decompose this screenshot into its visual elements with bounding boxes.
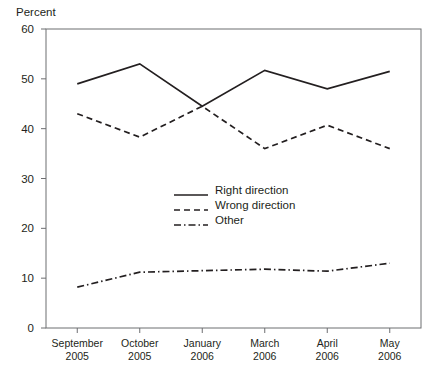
y-tick-label: 0 <box>8 322 34 334</box>
x-tick-year: 2006 <box>340 350 435 363</box>
legend-swatch-dashed <box>174 201 208 211</box>
y-tick-label: 50 <box>8 73 34 85</box>
series-line-right-direction <box>77 64 390 106</box>
series-line-other <box>77 263 390 287</box>
legend-swatch-dash-dot <box>174 216 208 226</box>
x-tick-month: March <box>250 337 279 349</box>
y-tick-label: 60 <box>8 23 34 35</box>
y-tick-label: 30 <box>8 173 34 185</box>
x-axis-ticks <box>77 328 390 333</box>
x-tick-label: May2006 <box>340 337 435 362</box>
legend-item-other: Other <box>174 213 295 228</box>
legend-label: Right direction <box>215 184 289 197</box>
chart-container: Percent 0102030405060 September2005Octob… <box>0 0 435 380</box>
legend-item-wrong-direction: Wrong direction <box>174 198 295 213</box>
legend-label: Wrong direction <box>215 199 295 212</box>
x-tick-month: May <box>380 337 400 349</box>
y-axis-ticks <box>41 29 46 328</box>
chart-legend: Right directionWrong directionOther <box>174 183 295 228</box>
data-series-group <box>77 64 390 287</box>
series-line-wrong-direction <box>77 106 390 148</box>
y-tick-label: 10 <box>8 272 34 284</box>
legend-swatch-solid <box>174 186 208 196</box>
legend-label: Other <box>215 214 244 227</box>
y-tick-label: 40 <box>8 123 34 135</box>
legend-item-right-direction: Right direction <box>174 183 295 198</box>
y-tick-label: 20 <box>8 222 34 234</box>
plot-frame <box>46 29 421 328</box>
x-tick-month: April <box>317 337 338 349</box>
